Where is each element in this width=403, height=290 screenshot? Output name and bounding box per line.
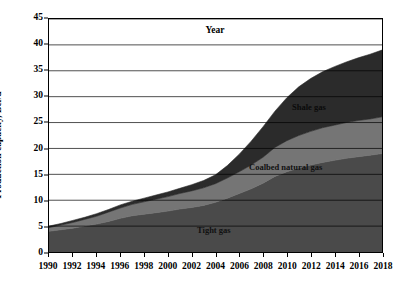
x-axis-tick-label: 2014 xyxy=(326,262,345,272)
x-axis-tick-mark xyxy=(192,253,193,257)
x-axis-tick-mark xyxy=(359,253,360,257)
x-axis-tick-label: 2018 xyxy=(374,262,393,272)
x-axis-tick-mark xyxy=(287,253,288,257)
series-label-tight-gas: Tight gas xyxy=(197,226,231,235)
x-axis-tick-label: 2010 xyxy=(278,262,297,272)
x-axis-tick-mark xyxy=(263,253,264,257)
y-axis-tick-label: 25 xyxy=(34,118,44,128)
x-axis-tick-label: 2000 xyxy=(158,262,177,272)
x-axis-tick-mark xyxy=(311,253,312,257)
y-axis-tick-label: 30 xyxy=(34,92,44,102)
x-axis-title: Year xyxy=(206,25,225,35)
x-axis-tick-mark xyxy=(383,253,384,257)
x-axis-tick-label: 1990 xyxy=(39,262,58,272)
x-axis-tick-mark xyxy=(48,253,49,257)
x-axis-tick-mark xyxy=(216,253,217,257)
stacked-area-svg xyxy=(49,19,382,252)
x-axis-tick-label: 1998 xyxy=(134,262,153,272)
x-axis-tick-mark xyxy=(96,253,97,257)
x-axis-tick-mark xyxy=(168,253,169,257)
x-axis-tick-mark xyxy=(335,253,336,257)
x-axis-tick-label: 1996 xyxy=(110,262,129,272)
x-axis-tick-label: 2004 xyxy=(206,262,225,272)
x-axis-tick-label: 2012 xyxy=(302,262,321,272)
x-axis-tick-label: 2002 xyxy=(182,262,201,272)
x-axis-tick-label: 2006 xyxy=(230,262,249,272)
y-axis-tick-label: 45 xyxy=(34,13,44,23)
y-axis-tick-label: 40 xyxy=(34,39,44,49)
x-axis-tick-label: 1992 xyxy=(62,262,81,272)
plot-area: Tight gas Coalbed natural gas Shale gas xyxy=(48,18,383,253)
chart-container: Production capacity, Bcf/d 0510152025303… xyxy=(0,0,403,290)
x-axis-tick-label: 1994 xyxy=(86,262,105,272)
x-axis: 1990199219941996199820002002200420062008… xyxy=(0,253,403,290)
x-axis-tick-mark xyxy=(144,253,145,257)
y-axis-tick-label: 10 xyxy=(34,196,44,206)
y-axis-tick-label: 20 xyxy=(34,144,44,154)
series-label-coalbed-natural-gas: Coalbed natural gas xyxy=(249,163,322,172)
y-axis-tick-label: 35 xyxy=(34,65,44,75)
y-axis: 051015202530354045 xyxy=(0,0,48,290)
y-axis-tick-label: 15 xyxy=(34,170,44,180)
y-axis-tick-label: 5 xyxy=(38,222,43,232)
series-label-shale-gas: Shale gas xyxy=(292,103,326,112)
x-axis-tick-mark xyxy=(72,253,73,257)
x-axis-tick-mark xyxy=(239,253,240,257)
x-axis-tick-label: 2008 xyxy=(254,262,273,272)
x-axis-tick-mark xyxy=(120,253,121,257)
area-band-tight-gas xyxy=(49,154,382,252)
x-axis-tick-label: 2016 xyxy=(350,262,369,272)
